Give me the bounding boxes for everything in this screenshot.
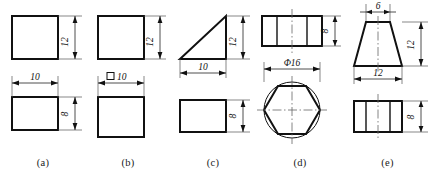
figure-b-square-symbol-icon: [107, 73, 114, 80]
figure-e-dim-top-width-6: 6: [376, 1, 381, 11]
figure-e-dim-height-12: 12: [406, 40, 416, 50]
figure-c-front-view-rect: [180, 100, 226, 132]
figure-d-caption: (d): [256, 157, 344, 168]
figure-a: 12 10 8 (a): [0, 0, 86, 172]
figure-c-drawing: 12 10 8: [170, 0, 256, 150]
figure-b-drawing: 12 10: [86, 0, 170, 150]
figure-a-caption: (a): [0, 157, 86, 168]
figure-a-front-view-rect: [12, 97, 58, 130]
figure-c-dim-height-8: 8: [228, 113, 238, 118]
drawing-sheet: 12 10 8 (a): [0, 0, 431, 172]
figure-e-dim-height-8: 8: [406, 114, 416, 119]
figure-b-caption: (b): [86, 157, 170, 168]
figure-a-drawing: 12 10 8: [0, 0, 86, 150]
figure-b-dim-height-12: 12: [145, 37, 155, 47]
figure-c-top-view-triangle: [180, 16, 226, 59]
figure-d-dim-height-8: 8: [320, 28, 330, 33]
figure-a-top-view-square: [12, 16, 58, 59]
figure-d: 8 Φ16 (d): [256, 0, 344, 172]
figure-e-drawing: 6 12 12: [344, 0, 431, 150]
figure-d-drawing: 8 Φ16: [256, 0, 344, 150]
figure-e: 6 12 12: [344, 0, 431, 172]
figure-a-dim-width-10: 10: [30, 72, 40, 82]
figure-e-dim-bottom-width-12: 12: [373, 68, 383, 78]
figure-a-dim-height-12: 12: [60, 37, 70, 47]
figure-b-front-view-square: [98, 97, 144, 137]
figure-e-caption: (e): [344, 157, 431, 168]
figure-a-dim-height-8: 8: [60, 111, 70, 116]
figure-c: 12 10 8 (c): [170, 0, 256, 172]
figure-b-dim-width-10: 10: [117, 72, 127, 82]
figure-c-caption: (c): [170, 157, 256, 168]
figure-d-dim-diameter-16: Φ16: [284, 58, 301, 68]
figure-c-dim-base-10: 10: [198, 62, 208, 72]
figure-b: 12 10 (b): [86, 0, 170, 172]
figure-c-dim-height-12: 12: [228, 37, 238, 47]
figure-b-top-view-square: [98, 16, 144, 59]
